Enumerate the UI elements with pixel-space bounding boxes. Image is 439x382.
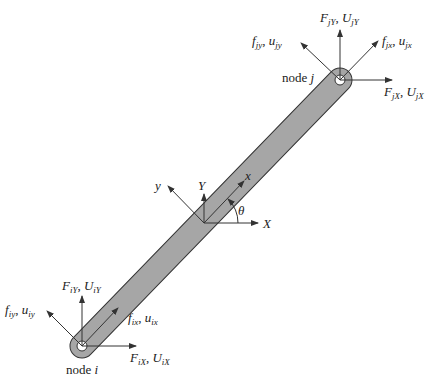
node-j-label: node j [282,70,315,85]
node-i-local-x-label: fix, uix [128,310,158,327]
local-y-label: y [153,178,161,193]
node-j-global-x-label: FjX, UjX [383,84,424,101]
node-j-local-y-label: fjy, ujy [252,33,282,50]
node-i-label: node i [66,362,99,377]
global-y-label: Y [198,178,207,193]
node-j-local-x-arrow [340,41,378,80]
node-i-global-y-label: FiY, UiY [61,278,102,295]
node-j-global-y-label: FjY, UjY [319,10,360,27]
node-i-local-y-label: fiy, uiy [5,302,35,319]
local-x-label: x [244,168,251,183]
node-i-global-x-label: FiX, UiX [129,350,170,367]
truss-element-diagram: Y X x y θ FjY, UjY fjx, ujx fjy, ujy FjX… [0,0,439,382]
node-i-local-y-arrow [47,311,82,346]
theta-label: θ [238,203,245,218]
node-j-local-x-label: fjx, ujx [382,33,412,50]
global-x-label: X [262,216,272,231]
